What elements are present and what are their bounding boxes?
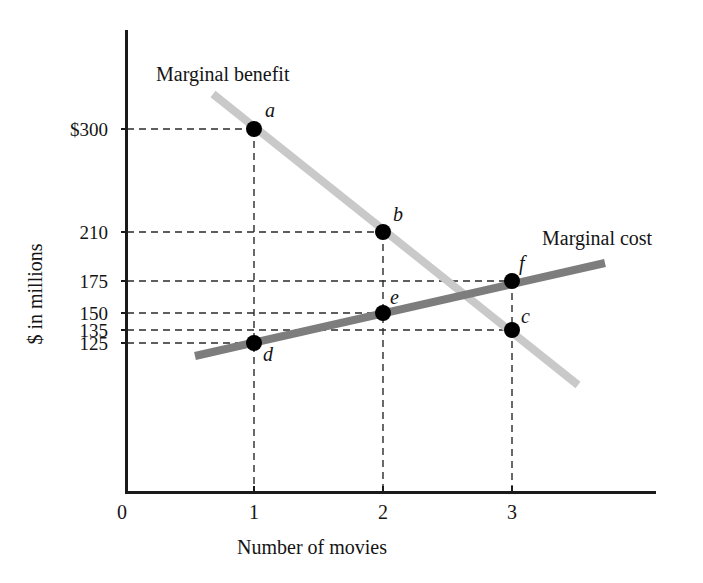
x-tick-label-3: 3 bbox=[507, 502, 517, 522]
point-label-c: c bbox=[521, 306, 530, 326]
y-tick-label-210: 210 bbox=[80, 223, 109, 242]
y-tick-label-300: $300 bbox=[70, 120, 108, 139]
marginal-cost-label: Marginal cost bbox=[542, 228, 652, 248]
x-tick-label-0: 0 bbox=[117, 502, 127, 522]
point-label-f: f bbox=[519, 253, 525, 273]
point-label-d: d bbox=[263, 344, 273, 364]
data-point-b bbox=[375, 224, 391, 240]
y-tick-label-125: 125 bbox=[80, 334, 109, 353]
marginal-benefit-label: Marginal benefit bbox=[156, 64, 289, 84]
x-tick-label-2: 2 bbox=[378, 502, 388, 522]
data-point-f bbox=[504, 273, 520, 289]
y-tick-label-175: 175 bbox=[80, 272, 109, 291]
data-point-d bbox=[246, 335, 262, 351]
data-point-a bbox=[246, 121, 262, 137]
chart-canvas bbox=[0, 0, 703, 583]
point-label-e: e bbox=[390, 287, 399, 307]
data-point-c bbox=[504, 322, 520, 338]
y-axis-title: $ in millions bbox=[25, 224, 45, 364]
guide-lines-horizontal bbox=[127, 129, 512, 343]
economics-marginal-benefit-cost-chart: $300 210 175 150 135 125 0 1 2 3 Number … bbox=[0, 0, 703, 583]
x-axis-title: Number of movies bbox=[237, 537, 387, 557]
x-tick-label-1: 1 bbox=[249, 502, 259, 522]
data-point-e bbox=[375, 305, 391, 321]
point-label-b: b bbox=[393, 204, 403, 224]
point-label-a: a bbox=[265, 100, 275, 120]
